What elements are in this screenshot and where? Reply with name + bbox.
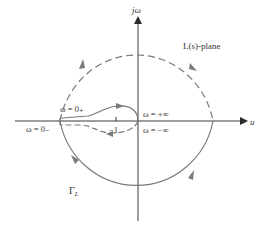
imag-axis-label: jω xyxy=(131,5,141,15)
omega-plus-inf-label: ω = +∞ xyxy=(143,109,169,119)
omega-0-minus-label: ω = 0₋ xyxy=(26,124,49,134)
real-axis-label: u xyxy=(250,117,255,127)
omega-0-plus-label: ω = 0₊ xyxy=(60,104,83,114)
arrow-inner-solid-icon xyxy=(116,103,124,109)
omega-minus-inf-label: ω = −∞ xyxy=(143,125,169,135)
contour-label: ΓL xyxy=(69,185,79,198)
plane-label: L(s)-plane xyxy=(183,41,220,51)
arrow-outer-upper-right-icon xyxy=(189,63,197,71)
inner-loop-dashed xyxy=(60,121,138,133)
arrow-outer-lower-left-icon xyxy=(71,155,79,164)
arrow-outer-upper-left-icon xyxy=(79,59,85,69)
contour-subscript: L xyxy=(74,190,79,198)
nyquist-diagram: jω u L(s)-plane ω = 0₊ ω = 0₋ ω = +∞ ω =… xyxy=(0,0,262,225)
minus-one-label: −1 xyxy=(109,125,118,135)
arrow-outer-lower-right-icon xyxy=(188,170,194,180)
